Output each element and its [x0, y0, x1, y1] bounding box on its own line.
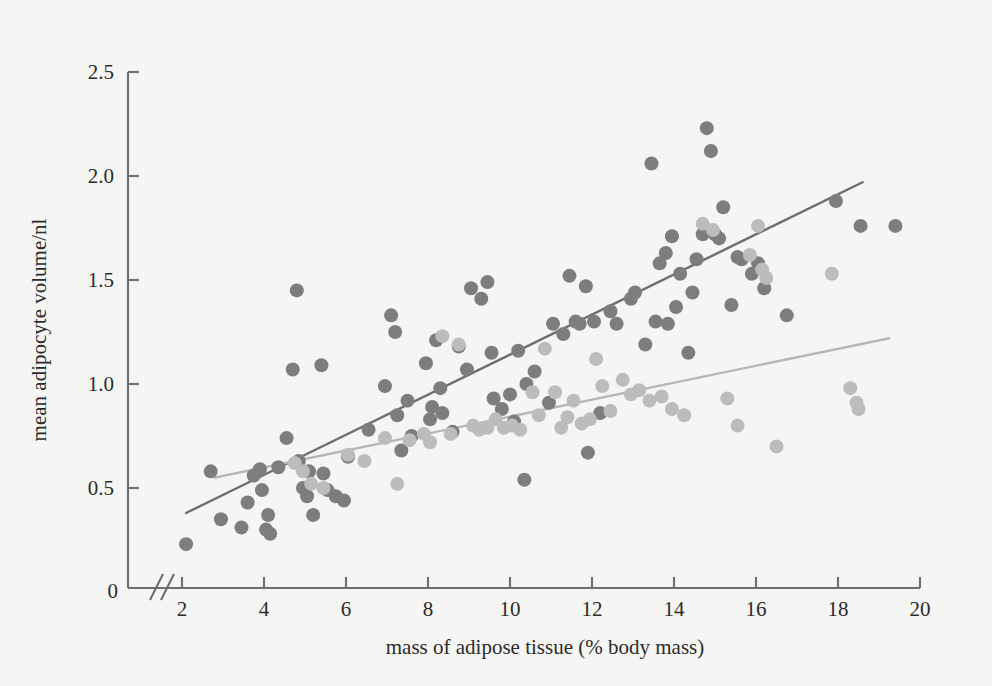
data-point: [316, 466, 330, 480]
data-point: [528, 365, 542, 379]
data-point: [665, 402, 679, 416]
data-point: [706, 223, 720, 237]
data-point: [390, 477, 404, 491]
data-point: [511, 344, 525, 358]
data-point: [503, 387, 517, 401]
x-tick-label: 20: [910, 597, 931, 621]
data-point: [556, 327, 570, 341]
data-point: [665, 229, 679, 243]
data-point: [829, 194, 843, 208]
data-point: [655, 389, 669, 403]
data-point: [419, 356, 433, 370]
data-point: [214, 512, 228, 526]
data-point: [644, 157, 658, 171]
data-point: [720, 392, 734, 406]
data-point: [562, 269, 576, 283]
x-tick-label: 16: [746, 597, 767, 621]
x-tick-label: 4: [259, 597, 270, 621]
data-point: [435, 329, 449, 343]
data-point: [583, 412, 597, 426]
data-point: [460, 362, 474, 376]
y-tick-label: 2.0: [88, 164, 114, 188]
data-point: [513, 423, 527, 437]
x-tick-label: 12: [582, 597, 603, 621]
data-point: [234, 521, 248, 535]
data-point: [271, 460, 285, 474]
data-point: [854, 219, 868, 233]
data-point: [700, 121, 714, 135]
data-point: [474, 292, 488, 306]
data-point: [573, 317, 587, 331]
data-point: [241, 496, 255, 510]
data-point: [603, 304, 617, 318]
data-point: [704, 144, 718, 158]
data-point: [532, 408, 546, 422]
data-point: [581, 446, 595, 460]
data-point: [362, 423, 376, 437]
figure-scatter-adipocyte: 0.51.01.52.02.524681012141618200mass of …: [0, 0, 992, 686]
data-point: [452, 337, 466, 351]
data-point: [253, 462, 267, 476]
data-point: [261, 508, 275, 522]
y-tick-label: 0.5: [88, 476, 114, 500]
series-dark: [179, 121, 902, 551]
data-point: [179, 537, 193, 551]
x-tick-label: 8: [423, 597, 434, 621]
data-point: [685, 285, 699, 299]
data-point: [616, 373, 630, 387]
data-point: [888, 219, 902, 233]
origin-label: 0: [108, 579, 119, 603]
y-axis-title: mean adipocyte volume/nl: [27, 218, 51, 441]
data-point: [603, 404, 617, 418]
data-point: [638, 337, 652, 351]
data-point: [388, 325, 402, 339]
y-tick-label: 1.5: [88, 268, 114, 292]
y-tick-label: 1.0: [88, 372, 114, 396]
data-point: [204, 464, 218, 478]
data-point: [286, 362, 300, 376]
series-light: [288, 217, 866, 495]
data-point: [485, 346, 499, 360]
data-point: [659, 246, 673, 260]
data-point: [546, 317, 560, 331]
data-point: [280, 431, 294, 445]
data-point: [548, 385, 562, 399]
data-point: [306, 508, 320, 522]
data-point: [825, 267, 839, 281]
data-point: [255, 483, 269, 497]
x-tick-label: 2: [177, 597, 188, 621]
data-point: [263, 527, 277, 541]
data-point: [610, 317, 624, 331]
x-tick-label: 10: [500, 597, 521, 621]
data-point: [690, 252, 704, 266]
x-axis-title: mass of adipose tissue (% body mass): [386, 635, 704, 659]
data-points-layer: [179, 121, 902, 551]
data-point: [316, 481, 330, 495]
data-point: [649, 315, 663, 329]
data-point: [677, 408, 691, 422]
data-point: [589, 352, 603, 366]
scatter-plot-canvas: 0.51.01.52.02.524681012141618200mass of …: [0, 0, 992, 686]
data-point: [743, 248, 757, 262]
data-point: [435, 406, 449, 420]
data-point: [423, 412, 437, 426]
data-point: [579, 279, 593, 293]
data-point: [390, 408, 404, 422]
x-tick-label: 14: [664, 597, 686, 621]
axes-layer: [128, 72, 920, 600]
data-point: [595, 379, 609, 393]
data-point: [337, 493, 351, 507]
data-point: [681, 346, 695, 360]
data-point: [480, 275, 494, 289]
data-point: [341, 448, 355, 462]
data-point: [526, 385, 540, 399]
y-tick-label: 2.5: [88, 60, 114, 84]
data-point: [517, 473, 531, 487]
data-point: [751, 219, 765, 233]
data-point: [770, 439, 784, 453]
data-point: [300, 489, 314, 503]
data-point: [780, 308, 794, 322]
data-point: [724, 298, 738, 312]
data-point: [401, 394, 415, 408]
data-point: [384, 308, 398, 322]
